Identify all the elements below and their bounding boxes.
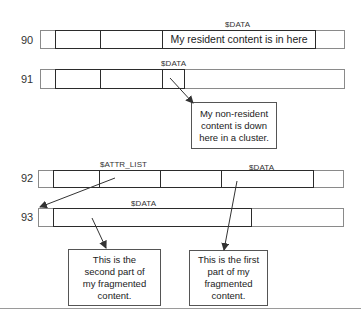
- arrow-to-nonresident-callout: [170, 78, 193, 103]
- arrow-to-first-part-callout: [224, 181, 237, 250]
- bottom-separator: [0, 308, 361, 309]
- arrows-layer: [0, 0, 361, 325]
- arrow-attr-list-to-record-93: [40, 178, 115, 207]
- arrow-to-second-part-callout: [92, 218, 106, 248]
